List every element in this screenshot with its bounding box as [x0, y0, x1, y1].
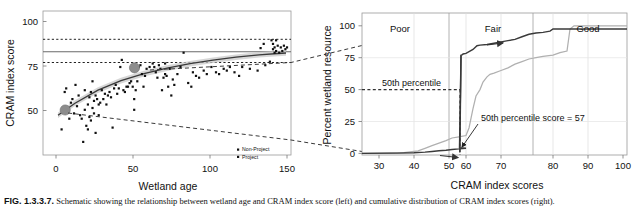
left-x-axis-label: Wetland age [139, 180, 198, 192]
left-xtick-label-0: 0 [53, 163, 58, 174]
right-y-axis-label: Percent wetland resource [321, 25, 333, 144]
figure-svg: 100 75 50 CRAM index score 0 50 100 150 … [0, 0, 638, 213]
right-xtick-label-90: 90 [583, 160, 594, 171]
right-xtick-label-100: 100 [615, 160, 631, 171]
left-plot-frame [43, 11, 291, 155]
left-xtick-label-150: 150 [279, 163, 295, 174]
left-ytick-label-75: 75 [27, 61, 38, 72]
right-ytick-label-25: 25 [344, 116, 355, 127]
condition-label-poor: Poor [390, 23, 410, 34]
legend-label-project: Project [242, 154, 259, 160]
right-xtick-label-30: 30 [374, 160, 385, 171]
right-ytick-label-50: 50 [344, 84, 355, 95]
left-xtick-label-100: 100 [202, 163, 218, 174]
annotation-50th-percentile-score: 50th percentile score = 57 [481, 113, 585, 123]
figure-container: 100 75 50 CRAM index score 0 50 100 150 … [0, 0, 638, 213]
right-xtick-label-50: 50 [444, 160, 455, 171]
left-ytick-label-100: 100 [22, 16, 38, 27]
right-xtick-label-40: 40 [409, 160, 420, 171]
left-xtick-label-50: 50 [128, 163, 139, 174]
legend-marker-project [237, 156, 239, 158]
right-xtick-label-60: 60 [461, 160, 472, 171]
annotation-50th-percentile: 50th percentile [382, 78, 441, 88]
figure-caption: FIG. 1.3.3.7. Schematic showing the rela… [4, 196, 634, 213]
condition-label-good: Good [576, 23, 599, 34]
right-ytick-label-100: 100 [339, 20, 355, 31]
caption-text: Schematic showing the relationship betwe… [54, 196, 555, 206]
right-ytick-label-75: 75 [344, 52, 355, 63]
left-y-axis-label: CRAM index score [4, 39, 16, 127]
right-ytick-label-0: 0 [350, 148, 355, 159]
right-xtick-label-80: 80 [548, 160, 559, 171]
condition-label-fair: Fair [485, 23, 501, 34]
left-project-point-2 [129, 63, 139, 73]
left-ytick-label-50: 50 [27, 105, 38, 116]
right-x-axis-label: CRAM index scores [451, 179, 544, 191]
legend-marker-non-project [237, 149, 239, 151]
legend-label-non-project: Non-Project [242, 146, 270, 152]
caption-label: FIG. 1.3.3.7. [4, 196, 54, 206]
right-xtick-label-70: 70 [496, 160, 507, 171]
